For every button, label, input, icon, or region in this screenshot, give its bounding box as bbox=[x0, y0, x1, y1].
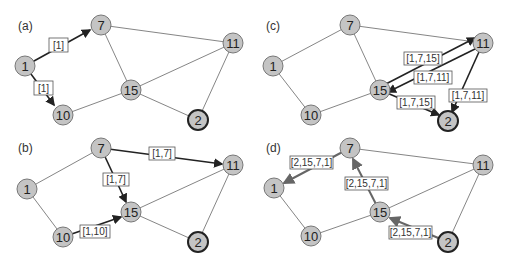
node-2: 2 bbox=[194, 113, 201, 128]
edge-label: [1,7] bbox=[106, 174, 126, 185]
edge-label: [1] bbox=[38, 83, 49, 94]
node-11: 11 bbox=[476, 36, 490, 51]
edge-label: [1] bbox=[53, 40, 64, 51]
node-11: 11 bbox=[226, 158, 240, 173]
panel-label: (d) bbox=[266, 141, 281, 155]
panel-b: (b) [1,7] [1,7] [1,10] 1 7 11 15 10 2 bbox=[17, 138, 243, 252]
node-1: 1 bbox=[23, 182, 30, 197]
node-15: 15 bbox=[124, 83, 138, 98]
edge-label: [1,7] bbox=[152, 148, 172, 159]
edge-label: [1,10] bbox=[82, 226, 107, 237]
node-11: 11 bbox=[476, 158, 490, 173]
node-15: 15 bbox=[124, 205, 138, 220]
edge-label: [1,7,15] bbox=[399, 97, 433, 108]
panel-label: (b) bbox=[18, 141, 33, 155]
node-10: 10 bbox=[56, 108, 70, 123]
node-11: 11 bbox=[226, 36, 240, 51]
edge-label: [2,15,7,1] bbox=[346, 178, 388, 189]
node-7: 7 bbox=[346, 141, 353, 156]
node-1: 1 bbox=[21, 59, 28, 74]
panel-a: (a) [1] [1] 1 7 11 15 10 2 bbox=[15, 15, 243, 130]
edge-label: [1,7,11] bbox=[417, 72, 450, 83]
edge-label: [2,15,7,1] bbox=[291, 157, 333, 168]
dijkstra-panels: (a) [1] [1] 1 7 11 15 10 2 (c) [1,7,15] … bbox=[0, 0, 508, 267]
panel-label: (a) bbox=[18, 19, 33, 33]
node-1: 1 bbox=[269, 59, 276, 74]
edge-label: [1,7,11] bbox=[452, 90, 485, 101]
node-10: 10 bbox=[304, 108, 318, 123]
panel-label: (c) bbox=[266, 19, 280, 33]
node-15: 15 bbox=[373, 205, 387, 220]
node-1: 1 bbox=[270, 181, 277, 196]
node-7: 7 bbox=[97, 18, 104, 33]
panel-c: (c) [1,7,15] [1,7,11] [1,7,15] [1,7,11] … bbox=[263, 15, 493, 131]
node-15: 15 bbox=[373, 83, 387, 98]
node-2: 2 bbox=[444, 235, 451, 250]
edge-label: [2,15,7,1] bbox=[390, 227, 432, 238]
edge-label: [1,7,15] bbox=[406, 53, 440, 64]
panel-d: (d) [2,15,7,1] [2,15,7,1] [2,15,7,1] 1 7… bbox=[264, 138, 493, 252]
node-10: 10 bbox=[56, 230, 70, 245]
node-7: 7 bbox=[346, 18, 353, 33]
node-2: 2 bbox=[444, 114, 451, 129]
node-7: 7 bbox=[97, 141, 104, 156]
node-2: 2 bbox=[194, 235, 201, 250]
node-10: 10 bbox=[304, 229, 318, 244]
